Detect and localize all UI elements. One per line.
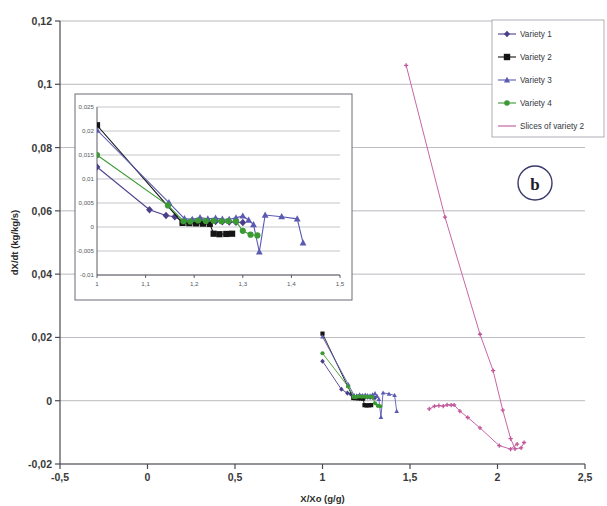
data-point-10 [240,228,246,234]
data-point-0 [404,63,408,67]
data-point-9 [229,231,235,237]
data-point-7 [216,231,222,237]
data-point-8 [225,218,231,224]
inset-chart: -0,01-0,00500,0050,010,0150,020,02511,11… [75,94,352,300]
panel-label: b [518,166,552,200]
data-point-2 [180,218,186,224]
x-axis-ticks: -0,500,511,522,5 [51,464,592,483]
y-axis-ticks: -0,0200,020,040,060,080,10,12 [28,15,60,470]
legend-marker-3 [504,100,510,106]
x-axis-title: X/Xo (g/g) [300,493,344,504]
series-line [429,405,517,449]
chart-svg: -0,0200,020,040,060,080,10,12-0,500,511,… [0,0,607,506]
inset-border [75,94,352,300]
inset-y-tick-label-0: -0,01 [80,271,95,278]
data-point-6 [211,218,217,224]
x-tick-label-0: -0,5 [51,471,69,483]
data-point-7 [218,218,224,224]
legend-label-1: Variety 2 [520,53,552,62]
data-point-11 [247,232,253,238]
data-point-0 [320,351,324,355]
panel-label-text: b [530,175,539,194]
data-point-12 [254,232,260,238]
inset-y-tick-label-4: 0,01 [82,175,95,182]
data-point-8 [522,440,526,444]
legend: Variety 1Variety 2Variety 3Variety 4Slic… [492,20,604,137]
data-point-9 [370,395,374,399]
series-variety-3 [320,334,399,419]
data-point-4 [501,408,505,412]
x-tick-label-5: 2 [495,471,501,483]
data-point-8 [223,231,229,237]
x-tick-label-6: 2,5 [578,471,593,483]
data-point-13 [379,415,384,419]
data-point-6 [211,231,217,237]
inset-x-tick-label-0: 1 [95,280,99,287]
x-tick-label-4: 1,5 [403,471,418,483]
data-point-14 [381,390,386,394]
legend-label-0: Variety 1 [520,30,552,39]
y-tick-label-6: 0,1 [37,78,52,90]
data-point-1 [346,384,350,388]
data-point-3 [187,218,193,224]
legend-label-3: Variety 4 [520,99,552,108]
data-point-5 [203,218,209,224]
data-point-17 [394,409,399,413]
inset-x-tick-label-2: 1,2 [190,280,199,287]
series-slices-of-variety-2-low-branch- [427,403,519,452]
data-point-4 [195,217,201,223]
x-tick-label-2: 0,5 [228,471,243,483]
data-point-0 [427,407,431,411]
data-point-3 [441,404,445,408]
y-tick-label-5: 0,08 [32,142,53,154]
y-tick-label-2: 0,02 [32,331,53,343]
y-axis-title: dX/dt (kg/kg/s) [9,210,20,275]
data-point-9 [369,403,373,407]
legend-marker-1 [504,54,510,60]
data-point-1 [432,404,436,408]
inset-x-tick-label-1: 1,1 [141,280,150,287]
data-point-3 [491,369,495,373]
figure-container: -0,0200,020,040,060,080,10,12-0,500,511,… [0,0,607,506]
data-point-5 [509,437,513,441]
y-tick-label-3: 0,04 [32,268,53,280]
inset-y-tick-label-5: 0,015 [79,151,95,158]
data-point-7 [519,446,523,450]
data-point-9 [233,218,239,224]
data-point-4 [445,403,449,407]
data-point-2 [437,404,441,408]
legend-label-4: Slices of variety 2 [520,122,585,131]
inset-y-tick-label-2: 0 [91,223,95,230]
inset-y-tick-label-1: -0,005 [76,247,94,254]
data-point-1 [165,202,171,208]
legend-label-2: Variety 3 [520,76,552,85]
inset-y-tick-label-3: 0,005 [79,199,95,206]
y-tick-label-1: 0 [46,395,52,407]
inset-x-tick-label-3: 1,3 [238,280,247,287]
data-point-12 [378,404,382,408]
inset-x-tick-label-4: 1,4 [287,280,296,287]
y-tick-label-4: 0,06 [32,205,53,217]
data-point-1 [443,215,447,219]
inset-y-tick-label-6: 0,02 [82,127,95,134]
x-tick-label-1: 0 [145,471,151,483]
data-point-2 [478,332,482,336]
inset-y-tick-label-7: 0,025 [79,103,95,110]
series-variety-1 [320,359,377,401]
y-tick-label-7: 0,12 [32,15,53,27]
y-tick-label-0: -0,02 [28,458,52,470]
x-tick-label-3: 1 [320,471,326,483]
inset-x-tick-label-5: 1,5 [336,280,345,287]
